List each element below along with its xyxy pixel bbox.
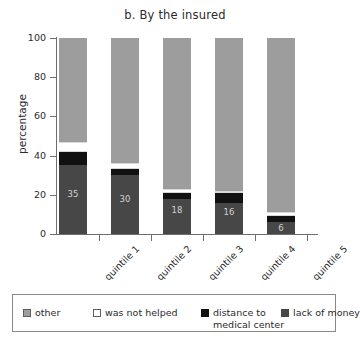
legend-label: distance to [213,307,266,318]
legend-label-line2: medical center [213,319,284,330]
legend-item[interactable]: distance to [201,307,266,318]
bar-value-label: 30 [111,195,139,204]
legend-item[interactable]: was not helped [93,307,178,318]
x-axis-label: quintile 2 [154,243,193,282]
stacked-bar: 35 [59,38,87,234]
y-tick-mark [50,38,56,39]
bar-segment: 18 [163,199,191,234]
y-tick-label: 100 [0,32,46,43]
bar-value-label: 6 [267,224,295,233]
bar-segment [59,152,87,166]
light-gray-square-icon [23,309,31,317]
legend-item[interactable]: other [23,307,60,318]
bar-segment: 30 [111,175,139,234]
bar-segment [163,189,191,193]
x-axis-line [56,234,318,235]
x-tick-mark [307,235,308,241]
y-tick-mark [50,234,56,235]
bar-segment [111,38,139,163]
legend-label: other [35,307,60,318]
bar-value-label: 16 [215,208,243,217]
bar-segment: 35 [59,165,87,234]
bar-segment [59,38,87,142]
stacked-bar: 6 [267,38,295,234]
bar-segment [163,193,191,199]
legend-label: lack of money [293,307,360,318]
y-tick-label: 0 [0,228,46,239]
x-tick-mark [203,235,204,241]
legend-label: was not helped [105,307,178,318]
plot-area: 353018166 [57,38,318,234]
x-tick-mark [151,235,152,241]
bar-segment: 6 [267,222,295,234]
y-tick-label: 40 [0,150,46,161]
y-tick-label: 60 [0,110,46,121]
black-square-icon [201,309,209,317]
bar-segment [267,216,295,222]
bar-value-label: 18 [163,206,191,215]
bar-segment [215,38,243,191]
stacked-bar: 18 [163,38,191,234]
chart-legend: otherwas not helpeddistance tomedical ce… [12,294,336,332]
x-axis-label: quintile 3 [206,243,245,282]
bar-segment [111,169,139,175]
bar-segment [267,212,295,216]
dark-gray-square-icon [281,309,289,317]
x-tick-mark [99,235,100,241]
bar-segment [267,38,295,212]
stacked-bar: 16 [215,38,243,234]
bar-segment [215,193,243,203]
y-tick-mark [50,116,56,117]
x-axis-label: quintile 5 [310,243,349,282]
x-axis-label: quintile 4 [258,243,297,282]
y-tick-mark [50,77,56,78]
legend-item[interactable]: lack of money [281,307,360,318]
white-square-icon [93,309,101,317]
x-axis-label: quintile 1 [102,243,141,282]
y-tick-label: 20 [0,189,46,200]
bar-segment: 16 [215,203,243,234]
bar-segment [111,163,139,169]
bar-segment [215,191,243,193]
stacked-bar: 30 [111,38,139,234]
bar-segment [163,38,191,189]
chart-title: b. By the insured [0,8,350,22]
bar-segment [59,142,87,152]
x-tick-mark [255,235,256,241]
y-tick-mark [50,195,56,196]
y-tick-label: 80 [0,71,46,82]
y-tick-mark [50,156,56,157]
bar-value-label: 35 [59,190,87,199]
